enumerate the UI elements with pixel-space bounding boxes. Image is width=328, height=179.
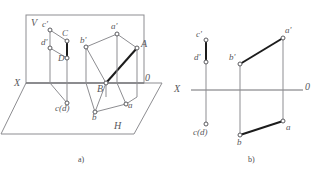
point-marker-dprime-b	[204, 60, 208, 64]
label-cprime-a: c'	[42, 20, 48, 29]
point-marker-a-b	[281, 119, 285, 123]
label-v-plane: V	[31, 18, 37, 28]
label-o-axis-a: 0	[145, 73, 150, 83]
label-dprime-b: d'	[194, 53, 200, 62]
diagram-a-group	[1, 15, 162, 134]
label-a-lower-a: a	[128, 101, 133, 110]
label-bprime-a: b'	[80, 36, 86, 45]
riser-a	[117, 83, 126, 104]
point-marker-A	[135, 46, 139, 50]
link-cd-h-plane	[50, 83, 67, 103]
segment-AB-thick	[106, 48, 137, 83]
label-x-axis-b: X	[174, 84, 180, 94]
riser-b	[86, 83, 95, 112]
label-dprime-a: d'	[41, 38, 47, 47]
technical-drawing-canvas	[0, 0, 328, 179]
label-cd-horizontal-b: c(d)	[193, 128, 208, 137]
label-a-b: a	[286, 123, 291, 132]
label-aprime-b: a'	[285, 26, 291, 35]
label-aprime-a: a'	[111, 22, 117, 31]
point-marker-C	[65, 39, 69, 43]
segment-b-a-thick-b	[240, 121, 283, 135]
label-A: A	[141, 39, 147, 49]
label-o-axis-b: 0	[305, 82, 310, 92]
point-marker-aprime-b	[281, 36, 285, 40]
caption-a: a)	[78, 156, 84, 164]
segment-bprime-aprime-thick-b	[240, 38, 283, 64]
point-marker-aprime-a	[115, 32, 119, 36]
point-marker-bprime-a	[84, 45, 88, 49]
label-x-axis-a: X	[14, 78, 20, 88]
projector-bprime-to-B	[86, 47, 106, 83]
point-marker-dprime-a	[48, 46, 52, 50]
label-bprime-b: b'	[229, 53, 235, 62]
figure-root: V H X 0 c' d' C D c(d) a' b' A B a b X 0…	[0, 0, 328, 179]
point-marker-bprime-b	[238, 62, 242, 66]
label-b-b: b	[237, 138, 242, 147]
segment-b-a-horizontal	[95, 104, 126, 112]
label-B: B	[97, 84, 103, 94]
point-marker-B	[104, 81, 108, 85]
label-cd-horizontal-a: c(d)	[55, 104, 70, 113]
projector-aprime-to-A	[117, 34, 137, 48]
label-h-plane: H	[114, 121, 121, 131]
label-cprime-b: c'	[196, 30, 202, 39]
point-marker-cprime-b	[204, 38, 208, 42]
point-marker-D	[65, 56, 69, 60]
label-C: C	[62, 29, 68, 38]
segment-bprime-aprime	[86, 34, 117, 47]
point-marker-cprime-a	[48, 28, 52, 32]
label-b-lower-a: b	[92, 113, 97, 122]
point-marker-cd-horizontal-b	[204, 122, 208, 126]
caption-b: b)	[248, 156, 255, 164]
h-plane-parallelogram	[1, 83, 162, 134]
label-D: D	[58, 54, 65, 63]
